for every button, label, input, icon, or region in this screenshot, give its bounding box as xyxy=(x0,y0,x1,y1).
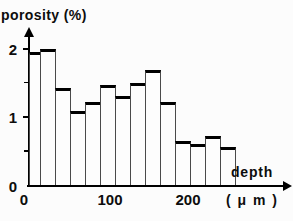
histogram-bar xyxy=(190,144,206,186)
chart-title: porosity (%) xyxy=(1,7,87,23)
histogram-bar xyxy=(115,96,131,186)
y-tick-label-2: 2 xyxy=(5,41,21,58)
x-axis-title: depth xyxy=(231,164,273,180)
y-axis-tick xyxy=(23,116,29,118)
histogram-bar xyxy=(85,102,101,186)
porosity-depth-histogram: porosity (%) 2 1 0 0 100 200 depth ( μ m… xyxy=(0,0,293,221)
histogram-bar xyxy=(145,70,161,186)
histogram-bar xyxy=(205,136,221,186)
histogram-bar xyxy=(175,141,191,186)
x-axis-line xyxy=(27,185,284,187)
x-tick-label-100: 100 xyxy=(88,191,132,208)
x-tick-label-0: 0 xyxy=(2,191,46,208)
histogram-bar xyxy=(40,49,56,186)
x-axis-arrow-icon xyxy=(283,181,292,191)
y-axis-minor-tick xyxy=(24,150,29,152)
y-tick-label-1: 1 xyxy=(5,109,21,126)
y-axis-tick xyxy=(23,48,29,50)
x-axis-unit-label: ( μ m ) xyxy=(226,192,279,208)
histogram-bar xyxy=(55,88,71,186)
histogram-bar xyxy=(100,85,116,186)
histogram-bar xyxy=(70,111,86,186)
histogram-bar xyxy=(130,83,146,186)
histogram-bar xyxy=(160,102,176,186)
x-tick-label-200: 200 xyxy=(166,191,210,208)
y-axis-minor-tick xyxy=(24,82,29,84)
